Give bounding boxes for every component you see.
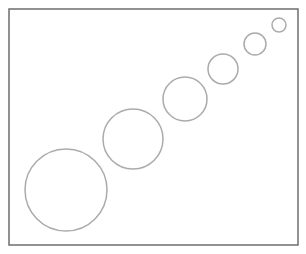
circle-4 <box>208 54 238 84</box>
circle-group <box>25 18 286 231</box>
circle-3 <box>163 77 207 121</box>
circle-5 <box>244 33 266 55</box>
diagram-canvas <box>0 0 306 254</box>
circle-6 <box>272 18 286 32</box>
circle-1 <box>25 149 107 231</box>
frame-border <box>9 9 298 245</box>
circle-2 <box>103 109 163 169</box>
